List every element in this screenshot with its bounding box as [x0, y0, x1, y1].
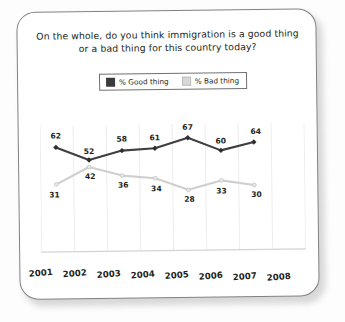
data-labels-bad-thing: 31 42 36 34 28 33 30	[49, 170, 262, 206]
data-label-bad-2003: 36	[118, 181, 129, 190]
legend-label-good-thing: % Good thing	[119, 77, 169, 87]
x-tick-2003: 2003	[96, 268, 121, 280]
x-tick-2002: 2002	[62, 267, 87, 279]
legend-label-bad-thing: % Bad thing	[195, 76, 240, 86]
card-surface: On the whole, do you think immigration i…	[16, 8, 319, 300]
screenshot-canvas: On the whole, do you think immigration i…	[0, 0, 345, 322]
legend-swatch-light-icon	[182, 77, 191, 86]
data-label-bad-2001: 31	[49, 190, 60, 199]
line-chart-svg: 62 52 58 61 67 60 64 31 42 36 34 2	[40, 122, 307, 261]
chart-title: On the whole, do you think immigration i…	[29, 26, 305, 56]
x-axis-labels: 2001 2002 2003 2004 2005 2006 2007 2008	[28, 262, 312, 287]
x-tick-2008: 2008	[266, 271, 291, 283]
x-tick-2001: 2001	[28, 267, 53, 279]
data-label-good-2007: 60	[215, 136, 226, 145]
data-label-bad-2006: 28	[184, 195, 195, 204]
chart-legend: % Good thing % Bad thing	[99, 72, 247, 91]
x-tick-2007: 2007	[232, 270, 257, 282]
data-label-bad-2008: 30	[251, 190, 262, 199]
data-label-bad-2007: 33	[216, 186, 227, 195]
data-label-bad-2002: 42	[85, 172, 96, 181]
data-label-good-2003: 58	[116, 135, 127, 144]
x-tick-2005: 2005	[164, 269, 189, 281]
legend-swatch-dark-icon	[106, 78, 115, 87]
data-label-good-2006: 67	[182, 123, 193, 132]
data-label-good-2005: 61	[149, 133, 160, 142]
data-label-good-2008: 64	[250, 127, 261, 136]
x-tick-2004: 2004	[130, 269, 155, 281]
legend-item-bad-thing[interactable]: % Bad thing	[182, 76, 240, 86]
plot-area: 62 52 58 61 67 60 64 31 42 36 34 2	[40, 122, 307, 261]
chart-card: On the whole, do you think immigration i…	[16, 8, 326, 306]
x-tick-2006: 2006	[198, 270, 223, 282]
data-label-good-2001: 62	[50, 131, 61, 140]
data-label-good-2002: 52	[84, 147, 95, 156]
legend-item-good-thing[interactable]: % Good thing	[106, 77, 169, 87]
data-labels-good-thing: 62 52 58 61 67 60 64	[50, 122, 261, 156]
data-label-bad-2005: 34	[151, 184, 162, 193]
